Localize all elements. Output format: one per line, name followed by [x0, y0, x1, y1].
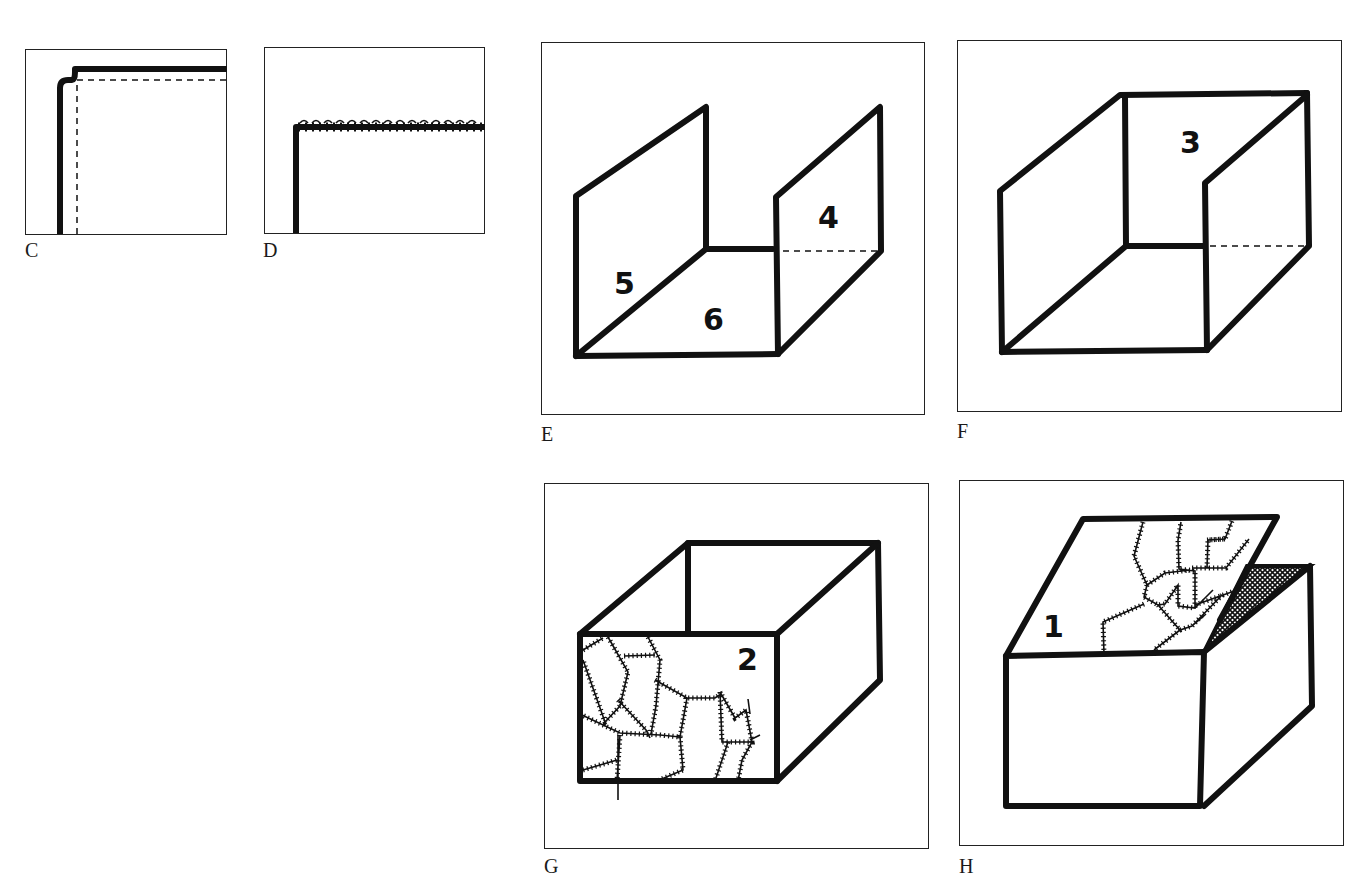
face-number-1: 1 [1043, 609, 1064, 644]
panel-h-drawing: 1 [0, 0, 1371, 880]
panel-h-label: H [959, 856, 973, 876]
